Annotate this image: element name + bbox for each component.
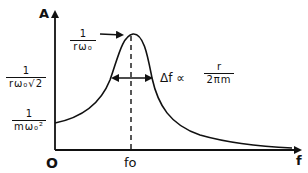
half-power-label-numerator: 1 xyxy=(6,66,46,77)
static-label-numerator: 1 xyxy=(12,109,46,120)
half-power-label-denominator: rω₀√2 xyxy=(6,78,46,89)
static-label-denominator: mω₀² xyxy=(12,121,46,132)
bandwidth-numerator: r xyxy=(204,62,234,73)
bandwidth-fraction: r 2πm xyxy=(204,62,234,85)
origin-label: O xyxy=(46,156,58,170)
y-axis-label: A xyxy=(39,7,49,20)
half-power-amplitude-label: 1 rω₀√2 xyxy=(6,66,46,89)
static-amplitude-label: 1 mω₀² xyxy=(12,109,46,132)
peak-amplitude-label: 1 rω₀ xyxy=(70,29,96,52)
resonance-curve-diagram xyxy=(0,0,308,173)
x-axis-label: f xyxy=(296,154,302,167)
bandwidth-lhs: Δf ∝ xyxy=(160,72,185,84)
peak-label-denominator: rω₀ xyxy=(70,41,96,52)
peak-label-numerator: 1 xyxy=(70,29,96,40)
resonance-frequency-label: fo xyxy=(124,156,137,169)
bandwidth-denominator: 2πm xyxy=(204,74,234,85)
resonance-label-sub: o xyxy=(129,155,137,170)
peak-pointer-arrow xyxy=(100,34,122,35)
